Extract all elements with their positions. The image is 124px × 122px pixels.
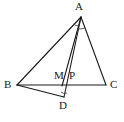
vertex-label-A: A xyxy=(75,1,83,12)
segment-BD xyxy=(17,85,64,97)
vertex-label-C: C xyxy=(110,79,117,90)
segment-group xyxy=(17,17,106,97)
angle-arc-at-D xyxy=(61,92,67,93)
angle-arc-at-A-right xyxy=(78,28,85,29)
geometry-figure: A B C D M P xyxy=(0,0,124,122)
vertex-label-M: M xyxy=(54,70,64,81)
vertex-label-D: D xyxy=(59,100,67,111)
vertex-label-B: B xyxy=(4,79,11,90)
segment-AC xyxy=(81,17,106,85)
vertex-label-P: P xyxy=(69,70,75,81)
